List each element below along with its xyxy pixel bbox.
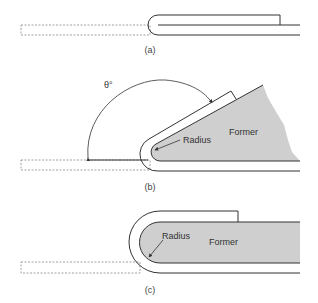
angle-label: θ° — [104, 80, 113, 90]
panel-a: (a) — [21, 15, 300, 55]
former-label-b: Former — [229, 127, 258, 137]
panel-b: θ° Radius Former (b) — [21, 80, 300, 192]
radius-label-c: Radius — [162, 231, 191, 241]
former-label-c: Former — [209, 237, 238, 247]
bending-diagram: (a) θ° Radius Former (b) Radius Former (… — [0, 0, 318, 303]
caption-a: (a) — [145, 45, 156, 55]
original-strip-position-b — [21, 160, 150, 170]
former-b — [151, 85, 300, 161]
panel-c: Radius Former (c) — [21, 211, 300, 295]
radius-label-b: Radius — [183, 135, 212, 145]
original-strip-position-a — [21, 25, 150, 35]
caption-b: (b) — [145, 182, 156, 192]
original-strip-position-c — [21, 262, 140, 273]
caption-c: (c) — [145, 285, 156, 295]
